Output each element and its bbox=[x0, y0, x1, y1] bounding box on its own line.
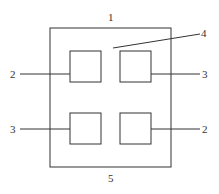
square-upper-left bbox=[70, 51, 101, 82]
label-lower-left: 3 bbox=[10, 123, 16, 135]
label-upper-left: 2 bbox=[10, 68, 16, 80]
square-upper-right bbox=[120, 51, 151, 82]
label-lower-right: 2 bbox=[202, 123, 208, 135]
diagram-canvas: 1 2 3 3 2 4 5 bbox=[0, 0, 219, 194]
label-pointer: 4 bbox=[201, 27, 207, 39]
label-top: 1 bbox=[108, 11, 114, 23]
leader-pointer bbox=[113, 34, 200, 48]
label-upper-right: 3 bbox=[202, 68, 208, 80]
label-bottom: 5 bbox=[108, 172, 114, 184]
outer-frame bbox=[50, 28, 171, 167]
square-lower-left bbox=[70, 113, 101, 144]
square-lower-right bbox=[120, 113, 151, 144]
